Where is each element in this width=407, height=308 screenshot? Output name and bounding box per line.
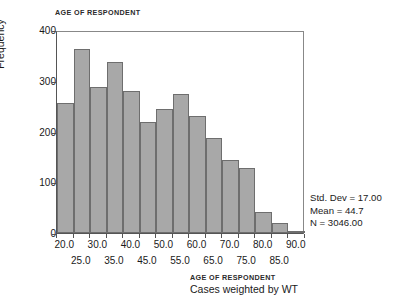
histogram-bar: [222, 160, 239, 233]
histogram-bar: [140, 122, 157, 233]
x-tick-label: 65.0: [203, 255, 222, 266]
caption-weighting-note: Cases weighted by WT: [190, 283, 298, 295]
x-tick-mark: [172, 234, 173, 238]
x-tick-label: 80.0: [253, 239, 272, 250]
x-tick-mark: [304, 234, 305, 238]
histogram-bar: [272, 223, 289, 233]
x-tick-mark: [221, 234, 222, 238]
x-tick-label: 85.0: [269, 255, 288, 266]
histogram-bar: [107, 62, 124, 233]
y-tick-label: 0: [0, 228, 56, 239]
stat-std-dev: Std. Dev = 17.00: [310, 192, 382, 205]
caption-x-variable: AGE OF RESPONDENT: [190, 273, 298, 282]
histogram-bar: [173, 94, 190, 233]
y-axis-label: Frequency: [0, 0, 6, 104]
x-tick-mark: [139, 234, 140, 238]
x-tick-mark: [254, 234, 255, 238]
chart-title: AGE OF RESPONDENT: [55, 8, 140, 17]
stat-mean: Mean = 44.7: [310, 205, 382, 218]
x-tick-label: 40.0: [121, 239, 140, 250]
histogram-bar: [255, 212, 272, 233]
histogram-bar: [123, 91, 140, 233]
x-tick-mark: [205, 234, 206, 238]
x-tick-mark: [122, 234, 123, 238]
plot-area: [56, 31, 304, 234]
bar-series: [57, 32, 303, 233]
histogram-bar: [189, 116, 206, 233]
x-tick-mark: [89, 234, 90, 238]
x-tick-label: 90.0: [286, 239, 305, 250]
histogram-bar: [206, 138, 223, 233]
histogram-chart: AGE OF RESPONDENT Frequency 010020030040…: [0, 0, 407, 308]
x-tick-mark: [188, 234, 189, 238]
y-tick-label: 200: [0, 127, 56, 138]
chart-caption: AGE OF RESPONDENT Cases weighted by WT: [190, 273, 298, 295]
histogram-bar: [288, 231, 305, 233]
y-tick-label: 400: [0, 25, 56, 36]
x-tick-mark: [106, 234, 107, 238]
x-tick-label: 35.0: [104, 255, 123, 266]
x-tick-label: 50.0: [154, 239, 173, 250]
statistics-block: Std. Dev = 17.00 Mean = 44.7 N = 3046.00: [310, 192, 382, 230]
x-tick-label: 25.0: [71, 255, 90, 266]
histogram-bar: [239, 168, 256, 233]
x-tick-label: 45.0: [137, 255, 156, 266]
x-tick-mark: [155, 234, 156, 238]
histogram-bar: [57, 103, 74, 233]
y-tick-label: 100: [0, 177, 56, 188]
x-tick-mark: [73, 234, 74, 238]
histogram-bar: [156, 109, 173, 233]
x-tick-label: 70.0: [220, 239, 239, 250]
x-tick-label: 20.0: [55, 239, 74, 250]
x-tick-label: 55.0: [170, 255, 189, 266]
x-tick-label: 75.0: [236, 255, 255, 266]
x-tick-mark: [56, 234, 57, 238]
x-tick-mark: [287, 234, 288, 238]
stat-n: N = 3046.00: [310, 217, 382, 230]
x-tick-label: 30.0: [88, 239, 107, 250]
x-tick-mark: [238, 234, 239, 238]
x-tick-mark: [271, 234, 272, 238]
histogram-bar: [90, 87, 107, 233]
x-tick-label: 60.0: [187, 239, 206, 250]
histogram-bar: [74, 49, 91, 233]
y-tick-label: 300: [0, 76, 56, 87]
